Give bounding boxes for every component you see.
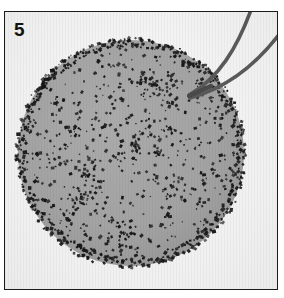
figure-panel: 5 [0,0,284,298]
pipette-upper-wall [189,12,251,95]
panel-number-label: 5 [14,20,25,39]
plate-frame: 5 [4,11,278,290]
plate-bottom-margin [0,290,284,298]
pipette-canvas [5,12,278,290]
